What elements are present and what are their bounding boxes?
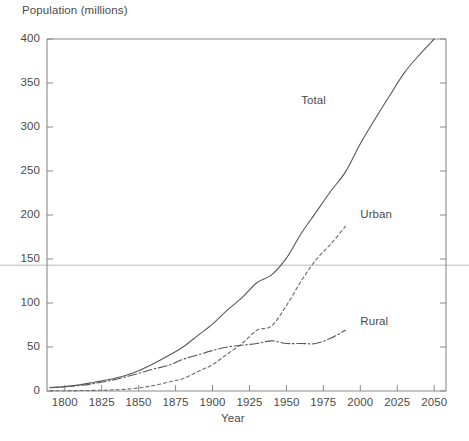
y-axis-title: Population (millions) <box>22 4 128 16</box>
y-tick-label: 50 <box>8 340 40 352</box>
y-tick-label: 0 <box>8 384 40 396</box>
y-tick-label: 150 <box>8 252 40 264</box>
series-line-rural <box>50 330 346 387</box>
series-label-rural: Rural <box>360 315 388 327</box>
series-label-total: Total <box>301 94 326 106</box>
population-line-chart: Population (millions) Year 0501001502002… <box>0 0 469 441</box>
y-tick-label: 100 <box>8 296 40 308</box>
series-label-urban: Urban <box>360 208 392 220</box>
y-tick-label: 250 <box>8 164 40 176</box>
y-tick-label: 400 <box>8 32 40 44</box>
y-tick-label: 200 <box>8 208 40 220</box>
chart-canvas <box>0 0 469 441</box>
y-tick-label: 350 <box>8 76 40 88</box>
series-line-urban <box>50 226 346 390</box>
x-axis-title: Year <box>221 412 245 424</box>
x-tick-label: 2050 <box>412 396 456 408</box>
y-tick-label: 300 <box>8 120 40 132</box>
